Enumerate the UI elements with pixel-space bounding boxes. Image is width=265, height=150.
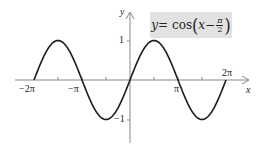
equation-label: y = cos ( x − π 2 ) (150, 12, 232, 38)
equation-eq: = cos (158, 18, 192, 32)
y-axis-label: y (120, 6, 124, 17)
paren-close: ) (224, 14, 230, 37)
fraction-denominator: 2 (217, 26, 222, 34)
equation-lhs: y (151, 18, 158, 32)
tick-label-y-neg1: −1 (114, 113, 125, 124)
tick-label-y-1: 1 (119, 34, 124, 45)
tick-label-neg-2pi: −2π (19, 83, 35, 94)
equation-fraction: π 2 (216, 17, 223, 34)
paren-open: ( (192, 14, 198, 37)
equation-x: x (198, 18, 205, 32)
x-axis (15, 76, 249, 84)
tick-label-pi: π (174, 83, 179, 94)
y-axis (126, 12, 134, 143)
x-axis-label: x (246, 84, 250, 95)
tick-label-neg-pi: −π (68, 83, 79, 94)
equation-minus: − (205, 18, 215, 32)
tick-label-2pi: 2π (222, 67, 232, 78)
